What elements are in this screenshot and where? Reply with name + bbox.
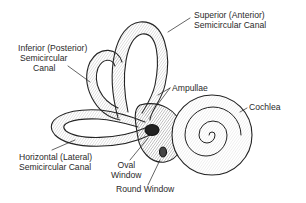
label-superior-line2: Semicircular Canal	[194, 20, 266, 30]
leader-superior	[168, 18, 190, 32]
label-oval-line1: Oval	[111, 160, 142, 170]
leader-round	[148, 160, 160, 185]
label-oval-window: Oval Window	[111, 160, 142, 180]
label-ampullae-text: Ampullae	[172, 83, 208, 93]
label-inferior-line2: Semicircular	[20, 53, 87, 63]
label-ampullae: Ampullae	[172, 83, 208, 93]
label-round-window: Round Window	[116, 184, 174, 194]
label-inferior-canal: Inferior (Posterior) Semicircular Canal	[18, 43, 87, 73]
label-cochlea-text: Cochlea	[249, 102, 281, 112]
label-inferior-line1: Inferior (Posterior)	[18, 43, 87, 53]
label-horizontal-line1: Horizontal (Lateral)	[19, 152, 92, 162]
label-round-window-text: Round Window	[116, 184, 174, 194]
label-horizontal-line2: Semicircular Canal	[19, 162, 92, 172]
label-superior-line1: Superior (Anterior)	[194, 10, 266, 20]
label-cochlea: Cochlea	[249, 102, 281, 112]
round-window	[160, 147, 167, 157]
leader-horizontal	[52, 140, 75, 150]
label-oval-line2: Window	[111, 170, 142, 180]
label-horizontal-canal: Horizontal (Lateral) Semicircular Canal	[19, 152, 92, 172]
oval-window	[145, 125, 159, 136]
cochlea	[172, 95, 252, 175]
label-superior-canal: Superior (Anterior) Semicircular Canal	[194, 10, 266, 30]
label-inferior-line3: Canal	[33, 63, 87, 73]
